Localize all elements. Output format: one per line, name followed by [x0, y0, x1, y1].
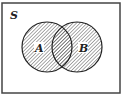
set-a-label: A [34, 42, 44, 55]
set-b-label: B [78, 42, 88, 55]
venn-diagram: S A B [0, 0, 123, 98]
universe-label: S [10, 9, 18, 22]
